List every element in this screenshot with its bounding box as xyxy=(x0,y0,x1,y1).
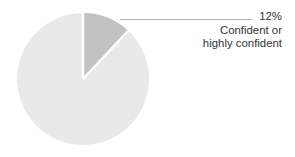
callout-category-line-1: Confident or xyxy=(102,24,282,38)
callout-label: 12% Confident or highly confident xyxy=(102,10,282,51)
callout-category-line-2: highly confident xyxy=(102,37,282,51)
pie-chart-figure: 12% Confident or highly confident xyxy=(0,0,295,157)
callout-percent: 12% xyxy=(102,10,282,24)
